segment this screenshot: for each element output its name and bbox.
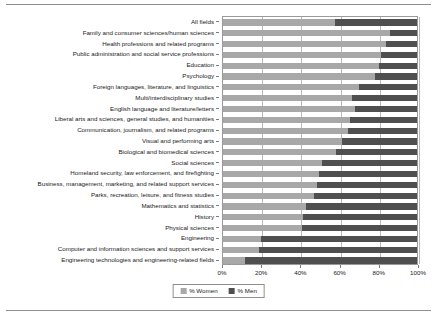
category-label: Public administration and social service… (73, 50, 214, 57)
legend-label: % Women (189, 287, 217, 294)
bar-row[interactable] (223, 63, 417, 69)
bar-row[interactable] (223, 236, 417, 242)
bar-row[interactable] (223, 257, 417, 263)
bar-segment-men (359, 84, 417, 90)
plot-area (222, 16, 418, 265)
category-label: Health professions and related programs (102, 40, 214, 47)
bar-segment-women (223, 149, 336, 155)
bar-segment-women (223, 193, 314, 199)
bar-segment-women (223, 19, 335, 25)
bar-row[interactable] (223, 19, 417, 25)
bar-segment-women (223, 247, 259, 253)
category-label: Psychology (182, 72, 214, 79)
bar-row[interactable] (223, 182, 417, 188)
x-tick-label: 0% (218, 269, 227, 277)
category-tick (216, 130, 219, 131)
category-tick (216, 86, 219, 87)
category-label: Business, management, marketing, and rel… (38, 180, 214, 187)
legend-item-women[interactable]: % Women (180, 287, 217, 294)
bar-segment-men (342, 138, 417, 144)
category-tick (216, 260, 219, 261)
bar-row[interactable] (223, 225, 417, 231)
bar-segment-women (223, 63, 379, 69)
category-tick (216, 249, 219, 250)
bar-row[interactable] (223, 138, 417, 144)
x-tick-60 (340, 265, 341, 268)
category-tick (216, 216, 219, 217)
x-tick-80 (379, 265, 380, 268)
category-label: Liberal arts and sciences, general studi… (55, 115, 214, 122)
bar-segment-men (306, 203, 417, 209)
x-axis: 0%20%40%60%80%100% (222, 265, 418, 283)
bar-row[interactable] (223, 30, 417, 36)
bar-row[interactable] (223, 95, 417, 101)
bar-row[interactable] (223, 247, 417, 253)
bar-segment-women (223, 203, 306, 209)
category-label: English language and literature/letters (110, 105, 214, 112)
chart-legend: % Women% Men (172, 284, 265, 298)
bar-row[interactable] (223, 193, 417, 199)
bar-row[interactable] (223, 149, 417, 155)
category-tick (216, 238, 219, 239)
category-tick (216, 162, 219, 163)
bar-segment-men (259, 247, 417, 253)
category-label: Family and consumer sciences/human scien… (83, 29, 214, 36)
category-tick (216, 76, 219, 77)
bar-segment-women (223, 73, 375, 79)
category-label: Multi/interdisciplinary studies (135, 94, 214, 101)
x-tick-20 (261, 265, 262, 268)
x-tick-label: 20% (255, 269, 267, 277)
bar-row[interactable] (223, 52, 417, 58)
gridline-100 (419, 17, 420, 264)
x-tick-label: 80% (373, 269, 385, 277)
bar-row[interactable] (223, 117, 417, 123)
bar-segment-men (348, 128, 417, 134)
bar-segment-women (223, 236, 261, 242)
bar-segment-women (223, 182, 317, 188)
bar-segment-men (386, 41, 417, 47)
category-label: Communication, journalism, and related p… (77, 126, 214, 133)
bottom-divider-rule (6, 310, 431, 311)
bar-rows (223, 17, 417, 264)
bar-row[interactable] (223, 128, 417, 134)
bar-row[interactable] (223, 160, 417, 166)
bar-row[interactable] (223, 214, 417, 220)
bar-segment-women (223, 95, 352, 101)
bar-segment-men (336, 149, 417, 155)
bar-segment-men (381, 52, 417, 58)
bar-segment-women (223, 117, 350, 123)
category-tick (216, 21, 219, 22)
category-tick (216, 108, 219, 109)
category-label: Homeland security, law enforcement, and … (70, 169, 214, 176)
x-tick-40 (300, 265, 301, 268)
category-tick (216, 32, 219, 33)
category-axis-labels: All fieldsFamily and consumer sciences/h… (0, 16, 219, 265)
bar-segment-men (319, 171, 417, 177)
category-label: Mathematics and statistics (141, 202, 214, 209)
bar-row[interactable] (223, 73, 417, 79)
bar-segment-women (223, 30, 390, 36)
bar-row[interactable] (223, 41, 417, 47)
bar-segment-women (223, 106, 355, 112)
bar-segment-women (223, 171, 319, 177)
category-label: Social sciences (171, 159, 214, 166)
category-label: Physical sciences (165, 224, 214, 231)
category-tick (216, 205, 219, 206)
category-tick (216, 173, 219, 174)
category-tick (216, 184, 219, 185)
bar-segment-women (223, 52, 381, 58)
top-divider-rule (6, 4, 431, 5)
category-label: History (195, 213, 214, 220)
bar-segment-men (375, 73, 417, 79)
bar-row[interactable] (223, 171, 417, 177)
bar-row[interactable] (223, 106, 417, 112)
bar-row[interactable] (223, 203, 417, 209)
bar-segment-men (379, 63, 417, 69)
legend-item-men[interactable]: % Men (229, 287, 257, 294)
bar-row[interactable] (223, 84, 417, 90)
category-label: Education (186, 61, 214, 68)
stacked-bar-chart: All fieldsFamily and consumer sciences/h… (0, 12, 437, 270)
bar-segment-men (317, 182, 417, 188)
bar-segment-women (223, 257, 245, 263)
category-label: Engineering (181, 234, 214, 241)
